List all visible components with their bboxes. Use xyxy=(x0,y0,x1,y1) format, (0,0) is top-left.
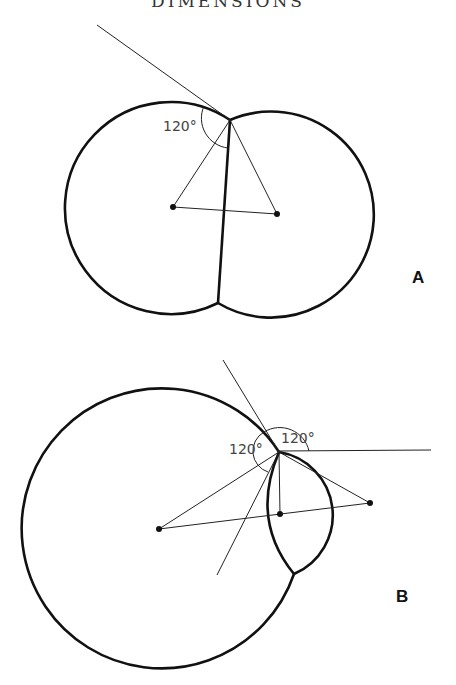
b-center-large xyxy=(156,526,162,532)
b-radius-middle xyxy=(279,452,280,514)
bubble-diagrams: 120° A 120° 120° B xyxy=(0,0,456,685)
a-angle-label: 120° xyxy=(163,118,197,134)
a-panel-label: A xyxy=(412,268,424,287)
b-tangent-right xyxy=(279,450,431,451)
b-panel-label: B xyxy=(396,587,408,606)
a-center-left xyxy=(170,204,176,210)
a-radius-right xyxy=(230,120,277,214)
a-center-right xyxy=(274,211,280,217)
b-center-line xyxy=(159,503,370,529)
b-center-small xyxy=(367,500,373,506)
diagram-b: 120° 120° B xyxy=(22,360,431,668)
diagram-a: 120° A xyxy=(65,25,424,318)
b-tangent-lower xyxy=(217,452,279,575)
b-radius-large xyxy=(159,452,279,529)
b-angle-label-left: 120° xyxy=(229,441,263,457)
b-center-middle xyxy=(277,511,283,517)
b-radius-small xyxy=(279,452,370,503)
b-angle-label-top: 120° xyxy=(281,430,315,446)
a-tangent-line xyxy=(97,25,230,120)
